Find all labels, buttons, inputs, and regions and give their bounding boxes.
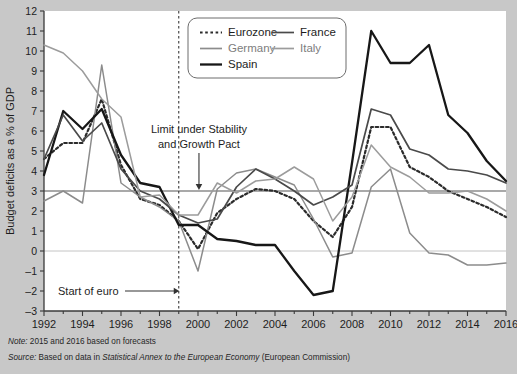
source-text-italic: Statistical Annex to the European Econom… bbox=[102, 353, 259, 362]
euro-start-annotation-text: Start of euro bbox=[58, 285, 119, 297]
chart-figure: –3–2–10123456789101112199219941996199820… bbox=[0, 0, 517, 374]
y-tick-label: 7 bbox=[31, 105, 37, 117]
y-tick-label: 11 bbox=[26, 25, 37, 37]
y-tick-label: 8 bbox=[31, 85, 37, 97]
y-tick-label: 3 bbox=[31, 185, 37, 197]
y-tick-label: 9 bbox=[31, 65, 37, 77]
x-tick-label: 1994 bbox=[70, 318, 94, 330]
note-text: 2015 and 2016 based on forecasts bbox=[30, 337, 156, 346]
footnotes: Note: 2015 and 2016 based on forecasts S… bbox=[8, 336, 508, 363]
x-tick-label: 2010 bbox=[378, 318, 402, 330]
stability-pact-annotation-text: Limit under Stability bbox=[151, 123, 247, 135]
source-line: Source: Based on data in Statistical Ann… bbox=[8, 352, 508, 363]
legend-label-spain: Spain bbox=[228, 58, 257, 70]
y-tick-label: 4 bbox=[31, 165, 37, 177]
y-tick-label: 6 bbox=[31, 125, 37, 137]
y-axis-title: Budget deficits as a % of GDP bbox=[4, 87, 16, 235]
y-tick-label: 10 bbox=[25, 45, 37, 57]
note-label: Note: bbox=[8, 337, 28, 346]
x-tick-label: 2006 bbox=[301, 318, 325, 330]
x-tick-label: 1998 bbox=[147, 318, 171, 330]
y-tick-label: 0 bbox=[31, 245, 37, 257]
x-tick-label: 2014 bbox=[455, 318, 479, 330]
legend-label-italy: Italy bbox=[300, 42, 321, 54]
note-line: Note: 2015 and 2016 based on forecasts bbox=[8, 336, 508, 347]
source-label: Source: bbox=[8, 353, 36, 362]
legend-label-france: France bbox=[300, 26, 336, 38]
y-tick-label: 5 bbox=[31, 145, 37, 157]
y-tick-label: –3 bbox=[25, 305, 37, 317]
x-tick-label: 2002 bbox=[224, 318, 248, 330]
y-tick-label: 1 bbox=[31, 225, 37, 237]
y-tick-label: 12 bbox=[25, 5, 37, 17]
stability-pact-annotation-text: and Growth Pact bbox=[158, 138, 240, 150]
y-tick-label: –1 bbox=[25, 265, 37, 277]
x-tick-label: 2000 bbox=[186, 318, 210, 330]
budget-deficits-line-chart: –3–2–10123456789101112199219941996199820… bbox=[0, 0, 517, 374]
x-tick-label: 1992 bbox=[32, 318, 56, 330]
legend-label-eurozone: Eurozone bbox=[228, 26, 277, 38]
x-tick-label: 1996 bbox=[109, 318, 133, 330]
x-tick-label: 2012 bbox=[417, 318, 441, 330]
y-tick-label: 2 bbox=[31, 205, 37, 217]
source-text-pre: Based on data in bbox=[39, 353, 103, 362]
x-tick-label: 2016 bbox=[494, 318, 517, 330]
source-text-post: (European Commission) bbox=[259, 353, 350, 362]
legend-label-germany: Germany bbox=[228, 42, 276, 54]
y-tick-label: –2 bbox=[25, 285, 37, 297]
x-tick-label: 2008 bbox=[340, 318, 364, 330]
x-tick-label: 2004 bbox=[263, 318, 287, 330]
